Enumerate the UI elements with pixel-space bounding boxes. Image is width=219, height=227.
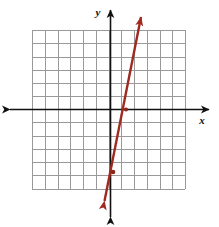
graph-figure: y x [0, 0, 219, 227]
line-point-y-intercept [111, 170, 116, 175]
x-axis-label: x [198, 114, 205, 126]
y-axis-label: y [94, 6, 101, 18]
coordinate-plane-svg: y x [0, 0, 219, 227]
line-point-x-intercept [124, 107, 128, 111]
